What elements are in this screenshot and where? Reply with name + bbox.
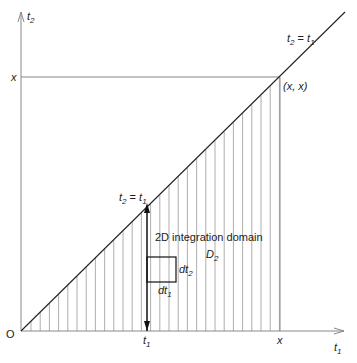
point-label: (x, x) [283,80,308,92]
x-axis-label: t1 [334,341,342,356]
x-tick-x-label: x [276,334,283,346]
y-tick-x-label: x [10,71,17,83]
dt2-label: dt2 [179,263,193,278]
line-label-top: t2 = t1 [287,32,315,47]
x-tick-t1-label: t1 [143,334,151,349]
integration-domain-diagram: t2 t1 O x x t1 t2 = t1 t2 = t1 (x, x) 2D… [0,0,357,363]
hatch-lines [31,78,279,331]
origin-label: O [6,328,15,340]
diagonal-line [21,12,345,331]
y-axis-label: t2 [27,10,35,25]
line-label-mid: t2 = t1 [119,191,147,206]
domain-name: D2 [206,248,219,263]
differential-element [147,257,176,282]
domain-text: 2D integration domain [155,231,263,243]
down-arrow-icon [144,321,150,331]
